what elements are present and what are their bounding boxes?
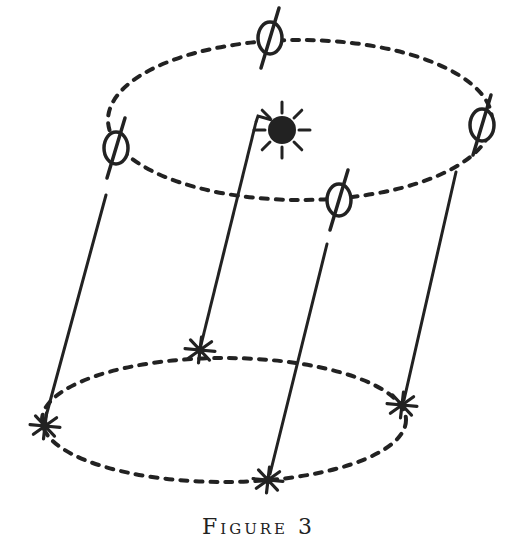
- connector-line: [201, 122, 256, 345]
- asterisk-node-icon: [387, 392, 417, 418]
- phi-node-icon: [327, 170, 351, 230]
- asterisk-node-icon: [253, 467, 283, 493]
- upper-ring-ellipse: [108, 40, 492, 200]
- asterisk-node-icon: [185, 337, 215, 363]
- figure-caption: Figure 3: [0, 514, 517, 538]
- asterisk-node-icon: [30, 413, 60, 439]
- filled-sun-icon: [254, 102, 310, 158]
- lower-ring-ellipse: [42, 358, 406, 482]
- connector-line: [404, 172, 456, 400]
- phi-node-icon: [258, 8, 282, 68]
